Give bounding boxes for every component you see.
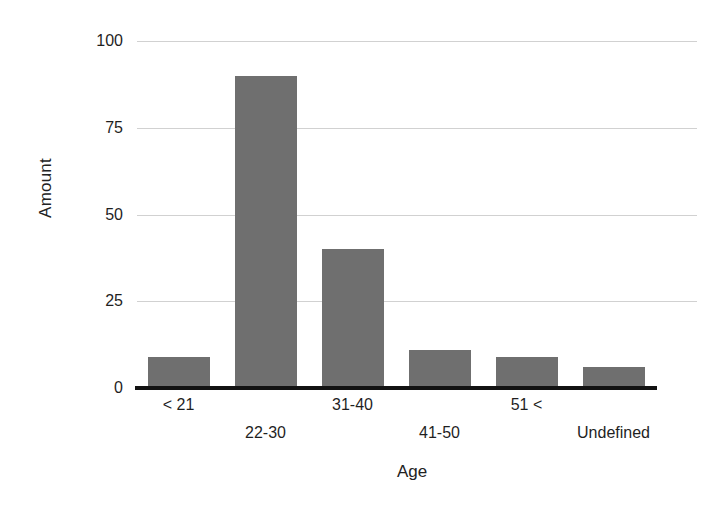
x-tick-label: 41-50 (419, 424, 460, 442)
y-axis-title: Amount (36, 148, 56, 228)
x-tick-label: Undefined (577, 424, 650, 442)
y-tick-label: 25 (63, 292, 123, 310)
bar (409, 350, 471, 388)
x-axis-line (135, 386, 657, 390)
bar (322, 249, 384, 388)
x-axis-title: Age (352, 462, 472, 482)
bar (235, 76, 297, 388)
y-tick-label: 50 (63, 206, 123, 224)
bar (148, 357, 210, 388)
y-tick-label: 0 (63, 379, 123, 397)
plot-area (135, 35, 697, 388)
y-tick-label: 75 (63, 119, 123, 137)
bar (583, 367, 645, 388)
bar-chart: Amount 0255075100 < 2122-3031-4041-5051 … (0, 0, 717, 509)
x-tick-label: 22-30 (245, 424, 286, 442)
bar (496, 357, 558, 388)
x-tick-label: 51 < (511, 396, 543, 414)
x-tick-label: < 21 (163, 396, 195, 414)
y-tick-label: 100 (63, 32, 123, 50)
x-tick-label: 31-40 (332, 396, 373, 414)
